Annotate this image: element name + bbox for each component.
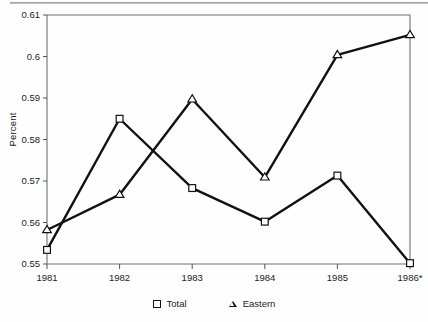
legend-item-eastern[interactable]: Eastern	[229, 298, 276, 309]
square-marker-icon	[407, 260, 414, 267]
x-axis-tick-label: 1983	[162, 272, 222, 283]
chart-legend: Total Eastern	[0, 298, 428, 309]
legend-item-total[interactable]: Total	[153, 298, 187, 309]
y-axis-tick-label: 0.6	[2, 51, 40, 62]
square-marker-icon	[334, 172, 341, 179]
square-marker-icon	[153, 300, 161, 308]
x-axis-tick-label: 1984	[235, 272, 295, 283]
data-series-group	[43, 30, 415, 266]
x-axis-tick-label: 1985	[307, 272, 367, 283]
square-marker-icon	[44, 246, 51, 253]
triangle-marker-icon	[406, 30, 415, 37]
x-axis-tick-label: 1986*	[380, 272, 428, 283]
x-axis-tick-label: 1982	[90, 272, 150, 283]
y-axis-tick-label: 0.58	[2, 134, 40, 145]
y-axis-tick-label: 0.57	[2, 175, 40, 186]
triangle-marker-icon	[188, 95, 197, 102]
series-line-total	[47, 119, 410, 263]
square-marker-icon	[261, 218, 268, 225]
legend-label-eastern: Eastern	[243, 298, 276, 309]
y-axis-tick-label: 0.59	[2, 92, 40, 103]
x-axis-tick-label: 1981	[17, 272, 77, 283]
y-axis-tick-label: 0.55	[2, 258, 40, 269]
square-marker-icon	[189, 185, 196, 192]
series-line-eastern	[47, 35, 410, 230]
square-marker-icon	[116, 115, 123, 122]
y-axis-tick-label: 0.56	[2, 217, 40, 228]
axes-group	[43, 15, 410, 269]
triangle-marker-icon	[229, 301, 237, 307]
chart-figure: Percent 0.610.60.590.580.570.560.55 1981…	[0, 0, 428, 322]
legend-label-total: Total	[167, 298, 187, 309]
y-axis-tick-label: 0.61	[2, 9, 40, 20]
